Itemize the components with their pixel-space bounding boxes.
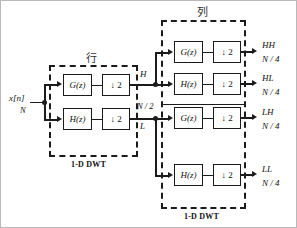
arrow-out-ll (252, 171, 257, 177)
arrow-col-g2-input (168, 115, 173, 121)
arrow-col-h1-input (168, 81, 173, 87)
row-downsample-1: ↓ 2 (102, 74, 130, 96)
arrow-row-g-input (57, 81, 62, 87)
output-hh-label: HH (262, 40, 275, 50)
wire-input-to-row-g (44, 84, 58, 86)
wire-h-riser (155, 52, 157, 85)
arrow-col-h2-input (168, 172, 173, 178)
column-filter-h-2: H(z) (174, 164, 203, 186)
input-size-label: N (20, 105, 26, 115)
column-downsample-1: ↓ 2 (213, 41, 241, 63)
row-stage-caption: 1-D DWT (71, 160, 106, 169)
column-section-divider (161, 104, 246, 105)
column-filter-h-1: H(z) (174, 73, 203, 95)
row-filter-h: H(z) (63, 108, 92, 130)
row-stage-cjk-label: 行 (86, 49, 97, 65)
wire-l-riser (155, 118, 157, 176)
column-downsample-2: ↓ 2 (213, 73, 241, 95)
diagram-canvas: 行 1-D DWT x[n] N G(z) ↓ 2 H N / 2 H(z) ↓… (0, 0, 297, 228)
arrow-out-hh (252, 48, 257, 54)
output-ll-label: LL (262, 164, 272, 174)
wire-l-to-col-h (155, 175, 169, 177)
row-out-h-size: N / 2 (137, 101, 154, 111)
column-filter-g-2: G(z) (174, 107, 203, 129)
output-lh-size: N / 4 (262, 121, 280, 131)
column-downsample-4: ↓ 2 (213, 164, 241, 186)
arrow-row-h-input (57, 116, 62, 122)
l-split-node (153, 116, 158, 121)
output-ll-size: N / 4 (262, 178, 280, 188)
column-downsample-3: ↓ 2 (213, 107, 241, 129)
row-out-l-label: L (140, 121, 145, 131)
h-split-node (153, 82, 158, 87)
arrow-col-g1-input (168, 49, 173, 55)
row-filter-g: G(z) (63, 74, 92, 96)
output-hl-label: HL (262, 73, 274, 83)
wire-h-to-col-g (155, 52, 169, 54)
wire-input-to-row-h (44, 119, 58, 121)
input-signal-label: x[n] (9, 93, 25, 103)
row-downsample-2: ↓ 2 (102, 108, 130, 130)
output-lh-label: LH (262, 107, 274, 117)
input-split-node (42, 100, 47, 105)
column-filter-g-1: G(z) (174, 41, 203, 63)
column-stage-cjk-label: 列 (197, 3, 208, 19)
output-hh-size: N / 4 (262, 54, 280, 64)
arrow-out-lh (252, 114, 257, 120)
row-out-h-label: H (140, 69, 147, 79)
arrow-out-hl (252, 80, 257, 86)
column-stage-caption: 1-D DWT (184, 212, 219, 221)
output-hl-size: N / 4 (262, 87, 280, 97)
